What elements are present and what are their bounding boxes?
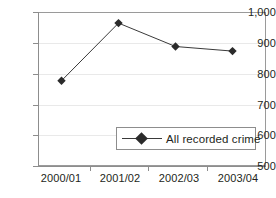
y-axis-tick [33,135,38,136]
y-axis-label-800: 800 [245,69,276,80]
y-axis-label-900: 900 [245,38,276,49]
legend[interactable]: All recorded crime [116,127,256,150]
x-axis-line [38,166,266,167]
y-axis-label-700: 700 [245,100,276,111]
y-axis-label-1000: 1,000 [245,7,276,18]
y-axis-tick [33,43,38,44]
x-axis-label-2000-01: 2000/01 [31,172,91,184]
gridline [39,43,265,44]
gridline [39,105,265,106]
legend-label: All recorded crime [166,133,260,145]
x-axis-label-2001-02: 2001/02 [90,172,150,184]
y-axis-tick [33,74,38,75]
x-axis-label-2003-04: 2003/04 [208,172,268,184]
x-axis-tick [90,167,91,171]
y-axis-line [38,12,39,167]
x-axis-tick [207,167,208,171]
y-axis-tick [33,105,38,106]
gridline [39,74,265,75]
diamond-marker-icon [122,131,162,147]
y-axis-tick [33,166,38,167]
y-axis-label-500: 500 [245,161,276,172]
chart-screenshot: 1,000 900 800 700 600 500 2000/01 2001/0… [0,0,276,198]
x-axis-tick [148,167,149,171]
y-axis-tick [33,12,38,13]
x-axis-label-2002-03: 2002/03 [149,172,209,184]
